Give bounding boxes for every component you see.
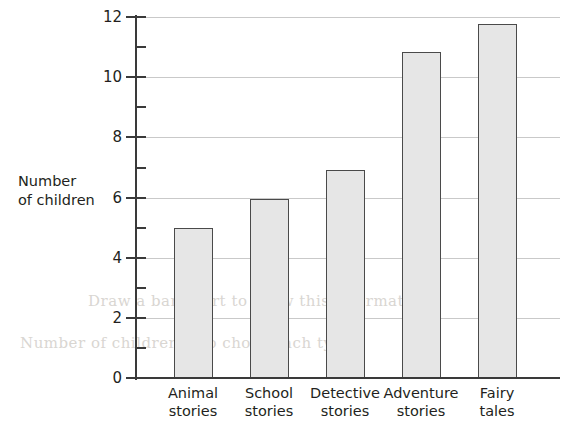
y-tick-major-4 bbox=[126, 257, 146, 259]
y-tick-label: 0 bbox=[100, 371, 122, 386]
bar-adventure-stories bbox=[402, 52, 441, 378]
x-label-line2: stories bbox=[397, 403, 446, 419]
x-label-line2: stories bbox=[245, 403, 294, 419]
y-tick-label: 8 bbox=[100, 130, 122, 145]
y-tick-minor-3 bbox=[136, 287, 146, 289]
y-axis-title-line2: of children bbox=[18, 192, 95, 208]
y-axis-tick-labels: 12 10 8 6 4 2 0 bbox=[90, 0, 122, 424]
bar-detective-stories bbox=[326, 170, 365, 378]
y-tick-minor-11 bbox=[136, 46, 146, 48]
y-tick-major-6 bbox=[126, 197, 146, 199]
y-tick-major-12 bbox=[126, 16, 146, 18]
y-tick-label: 2 bbox=[100, 311, 122, 326]
y-axis-title: Numberof children bbox=[18, 172, 95, 210]
y-tick-major-2 bbox=[126, 317, 146, 319]
y-axis-title-line1: Number bbox=[18, 173, 76, 189]
x-axis-line bbox=[136, 377, 560, 379]
x-label-line2: stories bbox=[169, 403, 218, 419]
y-tick-label: 6 bbox=[100, 191, 122, 206]
y-tick-label: 10 bbox=[100, 70, 122, 85]
y-tick-label: 12 bbox=[100, 10, 122, 25]
gridline-12 bbox=[136, 17, 560, 18]
y-tick-minor-1 bbox=[136, 347, 146, 349]
y-tick-major-0 bbox=[126, 377, 146, 379]
y-tick-major-8 bbox=[126, 136, 146, 138]
x-label-line1: Fairy bbox=[480, 385, 514, 401]
y-tick-minor-9 bbox=[136, 106, 146, 108]
bar-chart: Draw a bar chart to show this informatio… bbox=[0, 0, 566, 424]
x-tick-label-fairy-tales: Fairytales bbox=[440, 384, 554, 420]
bar-animal-stories bbox=[174, 228, 213, 378]
plot-area bbox=[136, 17, 560, 378]
x-label-line2: stories bbox=[321, 403, 370, 419]
y-tick-label: 4 bbox=[100, 251, 122, 266]
bar-fairy-tales bbox=[478, 24, 517, 378]
y-tick-minor-7 bbox=[136, 167, 146, 169]
x-label-line2: tales bbox=[479, 403, 514, 419]
x-label-line1: Animal bbox=[168, 385, 218, 401]
y-tick-minor-5 bbox=[136, 227, 146, 229]
bar-school-stories bbox=[250, 199, 289, 378]
y-tick-major-10 bbox=[126, 76, 146, 78]
x-label-line1: School bbox=[245, 385, 293, 401]
